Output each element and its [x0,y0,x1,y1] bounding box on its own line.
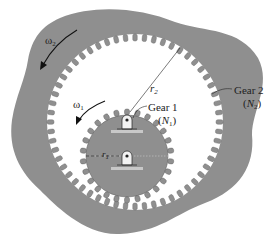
omega1-label: ω1 [73,99,84,112]
omega2-label: ω2 [45,35,56,48]
gear-diagram [0,0,274,242]
n2-symbol: N [247,97,254,109]
gear1-name: Gear 1 [148,101,178,113]
n1-symbol: N [162,114,169,126]
paren-close: ) [173,114,177,126]
gear2-label: Gear 2 [234,85,264,96]
r1-label: r1 [102,150,109,161]
r2-subscript: 2 [154,88,158,96]
omega2-subscript: 2 [52,40,56,48]
paren-close: ) [258,97,262,109]
gear2-name: Gear 2 [234,84,264,96]
r2-label: r2 [150,83,158,96]
gear2-count-label: (N2) [243,98,261,111]
r1-subscript: 1 [106,153,110,161]
gear1-label: Gear 1 [148,102,178,113]
gear1-count-label: (N1) [158,115,176,128]
omega1-subscript: 1 [80,104,84,112]
